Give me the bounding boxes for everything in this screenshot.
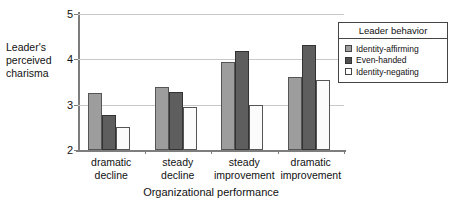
y-tick-2 xyxy=(74,150,78,151)
bar xyxy=(221,62,235,150)
x-tick-label-line-1: improvement xyxy=(271,169,352,182)
legend-title: Leader behavior xyxy=(339,23,447,39)
legend-item-identity-negating: Identity-negating xyxy=(345,67,443,77)
y-tick-label-2: 2 xyxy=(67,144,73,156)
bar-group-3 xyxy=(288,14,330,150)
bar-group-0 xyxy=(88,14,130,150)
bar-group-1 xyxy=(155,14,197,150)
y-tick-5 xyxy=(74,14,78,15)
legend-label-identity-affirming: Identity-affirming xyxy=(356,44,419,54)
y-tick-4 xyxy=(74,59,78,60)
legend-item-even-handed: Even-handed xyxy=(345,55,443,65)
legend-swatch-icon-identity-negating xyxy=(345,68,352,75)
bar xyxy=(155,87,169,150)
legend-item-identity-affirming: Identity-affirming xyxy=(345,44,443,54)
legend-label-even-handed: Even-handed xyxy=(356,55,407,65)
bar xyxy=(302,45,316,150)
y-axis-title-line-2: perceived xyxy=(6,54,72,67)
bar xyxy=(288,77,302,150)
y-axis-title-line-3: charisma xyxy=(6,67,72,80)
bar xyxy=(169,92,183,150)
y-axis-title-line-1: Leader's xyxy=(6,41,72,54)
x-axis-title: Organizational performance xyxy=(78,186,344,198)
legend-items: Identity-affirming Even-handed Identity-… xyxy=(339,39,447,82)
bar xyxy=(183,107,197,150)
legend-swatch-icon-even-handed xyxy=(345,57,352,64)
x-tick-label-line-0: dramatic xyxy=(271,156,352,169)
bar xyxy=(235,51,249,150)
bar xyxy=(88,93,102,150)
y-tick-label-3: 3 xyxy=(67,99,73,111)
legend-label-identity-negating: Identity-negating xyxy=(356,67,419,77)
y-tick-3 xyxy=(74,105,78,106)
y-tick-label-4: 4 xyxy=(67,53,73,65)
x-tick-1 xyxy=(211,150,212,154)
x-tick-0 xyxy=(145,150,146,154)
x-tick-2 xyxy=(278,150,279,154)
bar xyxy=(249,105,263,150)
y-axis-title: Leader's perceived charisma xyxy=(6,41,72,80)
x-tick-3 xyxy=(344,150,345,154)
bar xyxy=(116,127,130,150)
bar xyxy=(316,80,330,150)
bar xyxy=(102,115,116,150)
chart-figure: Leader's perceived charisma 2345 Organiz… xyxy=(0,0,455,212)
x-tick-label-3: dramaticimprovement xyxy=(271,156,352,181)
legend-swatch-icon-identity-affirming xyxy=(345,45,352,52)
y-tick-label-5: 5 xyxy=(67,8,73,20)
plot-area: 2345 xyxy=(78,14,344,150)
legend: Leader behavior Identity-affirming Even-… xyxy=(338,22,448,83)
bar-group-2 xyxy=(221,14,263,150)
